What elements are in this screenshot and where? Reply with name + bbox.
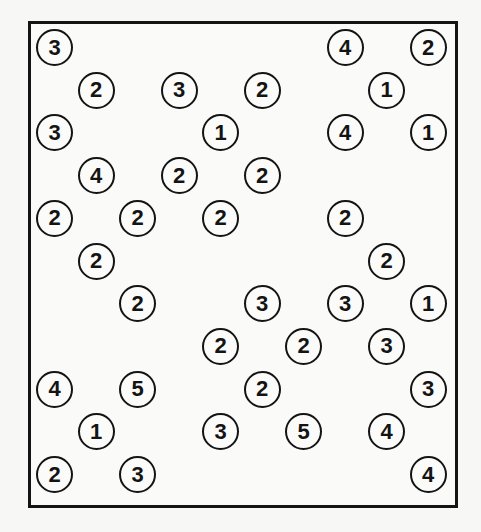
island-r3-c1[interactable]: 4 xyxy=(78,157,115,194)
island-r10-c0[interactable]: 2 xyxy=(36,456,73,493)
island-r5-c8[interactable]: 2 xyxy=(368,243,405,280)
island-r4-c2[interactable]: 2 xyxy=(119,200,156,237)
island-r0-c7[interactable]: 4 xyxy=(327,29,364,66)
island-r8-c2[interactable]: 5 xyxy=(119,371,156,408)
island-r9-c4[interactable]: 3 xyxy=(202,413,239,450)
island-r8-c0[interactable]: 4 xyxy=(36,371,73,408)
island-r5-c1[interactable]: 2 xyxy=(78,243,115,280)
island-r8-c5[interactable]: 2 xyxy=(244,371,281,408)
island-r6-c2[interactable]: 2 xyxy=(119,285,156,322)
island-r8-c9[interactable]: 3 xyxy=(410,371,447,408)
island-r2-c0[interactable]: 3 xyxy=(36,114,73,151)
island-r7-c6[interactable]: 2 xyxy=(285,328,322,365)
island-r1-c3[interactable]: 3 xyxy=(161,72,198,109)
puzzle-board: 34223213141422222222233122345231354234 xyxy=(28,21,458,508)
island-r1-c8[interactable]: 1 xyxy=(368,72,405,109)
island-r1-c5[interactable]: 2 xyxy=(244,72,281,109)
island-r7-c8[interactable]: 3 xyxy=(368,328,405,365)
island-r4-c4[interactable]: 2 xyxy=(202,200,239,237)
island-r2-c4[interactable]: 1 xyxy=(202,114,239,151)
island-r9-c8[interactable]: 4 xyxy=(368,413,405,450)
island-r6-c5[interactable]: 3 xyxy=(244,285,281,322)
island-r9-c1[interactable]: 1 xyxy=(78,413,115,450)
island-r6-c7[interactable]: 3 xyxy=(327,285,364,322)
island-r10-c2[interactable]: 3 xyxy=(119,456,156,493)
island-r6-c9[interactable]: 1 xyxy=(410,285,447,322)
island-r3-c5[interactable]: 2 xyxy=(244,157,281,194)
island-r7-c4[interactable]: 2 xyxy=(202,328,239,365)
island-r0-c0[interactable]: 3 xyxy=(36,29,73,66)
island-r1-c1[interactable]: 2 xyxy=(78,72,115,109)
island-r2-c9[interactable]: 1 xyxy=(410,114,447,151)
island-r4-c0[interactable]: 2 xyxy=(36,200,73,237)
island-r4-c7[interactable]: 2 xyxy=(327,200,364,237)
island-r9-c6[interactable]: 5 xyxy=(285,413,322,450)
island-r3-c3[interactable]: 2 xyxy=(161,157,198,194)
island-r10-c9[interactable]: 4 xyxy=(410,456,447,493)
island-r2-c7[interactable]: 4 xyxy=(327,114,364,151)
island-r0-c9[interactable]: 2 xyxy=(410,29,447,66)
